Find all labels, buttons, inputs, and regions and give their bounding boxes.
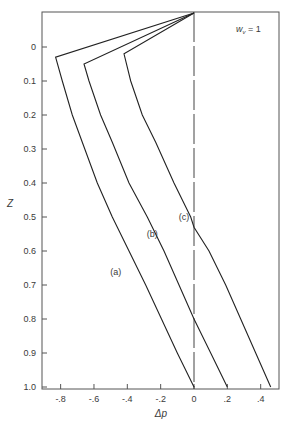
x-tick-label: -.2 xyxy=(155,394,166,404)
y-tick-label: 0 xyxy=(31,42,36,52)
x-axis-ticks: -.8-.6-.4-.20.2.4 xyxy=(55,384,264,404)
y-tick-label: 0.9 xyxy=(23,348,36,358)
y-axis-ticks: 00.10.20.30.40.50.60.70.80.91.0 xyxy=(23,42,47,392)
curve-c xyxy=(124,13,271,387)
plot-frame xyxy=(42,12,279,389)
x-tick-label: .4 xyxy=(257,394,265,404)
y-tick-label: 0.2 xyxy=(23,110,36,120)
curve-b xyxy=(84,13,227,387)
x-axis-label: Δp xyxy=(154,408,168,419)
y-tick-label: 0.1 xyxy=(23,76,36,86)
curve-label-a: (a) xyxy=(110,267,121,277)
curve-a xyxy=(56,13,194,387)
y-tick-label: 0.3 xyxy=(23,144,36,154)
curve-label-b: (b) xyxy=(147,229,158,239)
y-tick-label: 0.8 xyxy=(23,314,36,324)
x-tick-label: -.8 xyxy=(55,394,66,404)
y-tick-label: 1.0 xyxy=(23,382,36,392)
annotation-tail: = 1 xyxy=(246,24,261,34)
x-tick-label: .2 xyxy=(224,394,232,404)
y-tick-label: 0.6 xyxy=(23,246,36,256)
y-tick-label: 0.4 xyxy=(23,178,36,188)
data-series xyxy=(56,13,271,387)
chart: -.8-.6-.4-.20.2.4 00.10.20.30.40.50.60.7… xyxy=(0,0,289,427)
x-tick-label: -.4 xyxy=(122,394,133,404)
y-axis-label: Z xyxy=(6,198,14,209)
y-tick-label: 0.5 xyxy=(23,212,36,222)
wv-annotation: wv = 1 xyxy=(236,24,261,35)
y-tick-label: 0.7 xyxy=(23,280,36,290)
curve-label-c: (c) xyxy=(179,212,190,222)
x-tick-label: 0 xyxy=(191,394,196,404)
x-tick-label: -.6 xyxy=(89,394,100,404)
